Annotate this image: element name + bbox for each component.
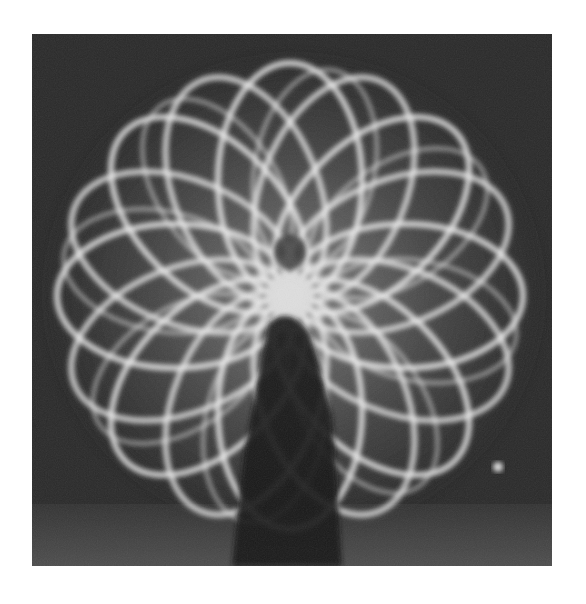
light-painting-photo: Black-and-white long-exposure light pain… [32, 34, 552, 566]
light-painting-graphic [32, 34, 552, 566]
